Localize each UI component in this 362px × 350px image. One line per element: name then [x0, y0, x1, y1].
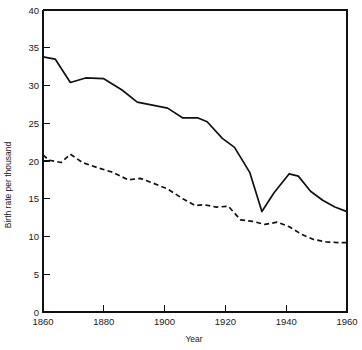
- x-tick-label: 1860: [32, 316, 53, 327]
- x-tick-label: 1960: [336, 316, 357, 327]
- x-tick-label: 1900: [154, 316, 175, 327]
- y-tick-label: 40: [28, 5, 39, 16]
- y-tick-label: 35: [28, 42, 39, 53]
- y-axis-tick-labels: 40 35 30 25 20 15 10 5 0: [28, 5, 39, 318]
- chart-canvas: 40 35 30 25 20 15 10 5 0 1860 1880 1900 …: [0, 0, 362, 350]
- y-tick-label: 10: [28, 231, 39, 242]
- y-tick-label: 20: [28, 156, 39, 167]
- x-tick-label: 1940: [276, 316, 297, 327]
- series-line-solid: [43, 57, 347, 212]
- y-tick-label: 25: [28, 118, 39, 129]
- x-tick-label: 1880: [93, 316, 114, 327]
- x-axis-tick-labels: 1860 1880 1900 1920 1940 1960: [32, 316, 357, 327]
- x-tick-label: 1920: [215, 316, 236, 327]
- y-axis-ticks: [43, 10, 50, 312]
- x-axis-ticks: [43, 305, 347, 312]
- y-tick-label: 5: [34, 269, 39, 280]
- axis-frame: [43, 10, 347, 312]
- series-line-dashed: [43, 154, 347, 242]
- y-axis-title: Birth rate per thousand: [3, 142, 13, 229]
- x-axis-title: Year: [185, 334, 202, 344]
- birth-rate-line-chart: 40 35 30 25 20 15 10 5 0 1860 1880 1900 …: [0, 0, 362, 350]
- y-tick-label: 30: [28, 80, 39, 91]
- y-tick-label: 15: [28, 193, 39, 204]
